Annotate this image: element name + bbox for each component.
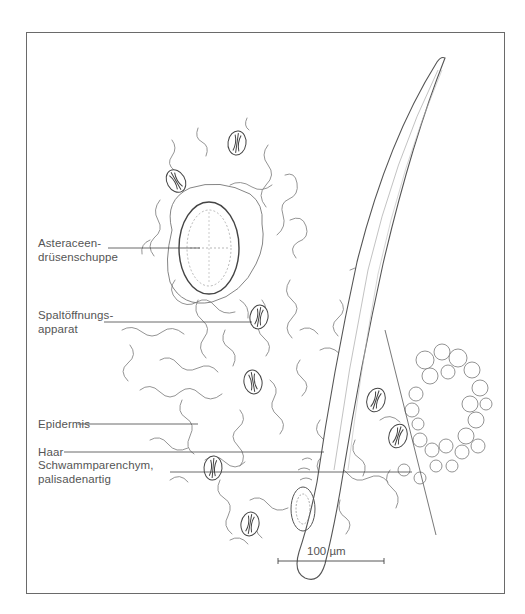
label-line: Haar <box>38 446 63 460</box>
label-line: palisadenartig <box>38 473 153 487</box>
hair <box>291 58 445 580</box>
label-line: Spaltöffnungs- <box>38 309 113 323</box>
cell-wall <box>169 140 175 170</box>
label-line: Asteraceen- <box>38 237 118 251</box>
label-line: Epidermis <box>38 418 90 432</box>
label-haar: Haar <box>38 446 63 460</box>
label-spaltoeffnungsapparat: Spaltöffnungs- apparat <box>38 309 113 336</box>
label-asteraceen-druesenschuppe: Asteraceen- drüsenschuppe <box>38 237 118 264</box>
label-schwammparenchym: Schwammparenchym, palisadenartig <box>38 459 153 486</box>
label-epidermis: Epidermis <box>38 418 90 432</box>
glandular-scale <box>167 184 263 303</box>
scale-bar-label: 100 µm <box>307 545 346 557</box>
label-line: Schwammparenchym, <box>38 459 153 473</box>
label-line: drüsenschuppe <box>38 251 118 265</box>
label-line: apparat <box>38 323 113 337</box>
spongy-parenchyma <box>398 344 492 484</box>
scale-bar <box>278 558 384 564</box>
leaf-epidermis-illustration <box>0 0 525 614</box>
